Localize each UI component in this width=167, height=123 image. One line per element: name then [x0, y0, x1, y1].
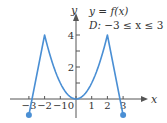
x-tick-label: −2: [37, 100, 52, 111]
domain-label: D: −3 ≤ x ≤ 3: [88, 19, 163, 31]
function-title: y = f(x): [88, 5, 128, 17]
x-axis-label: x: [151, 93, 158, 106]
x-tick-label: −3: [22, 100, 37, 111]
function-graph: −3−2−1012324 x y y = f(x) D: −3 ≤ x ≤ 3: [0, 0, 167, 123]
x-tick-label: −1: [53, 100, 68, 111]
x-tick-label: 2: [104, 100, 110, 111]
y-tick-label: 4: [68, 30, 74, 41]
x-tick-label: 1: [89, 100, 95, 111]
y-tick-label: 2: [68, 62, 74, 73]
endpoint-dot: [120, 112, 126, 118]
y-axis-label: y: [70, 4, 78, 17]
domain-prefix: D:: [88, 19, 104, 31]
x-axis-arrow-icon: [141, 96, 148, 102]
x-tick-label: 0: [68, 100, 74, 111]
domain-range: −3 ≤ x ≤ 3: [104, 19, 163, 31]
endpoint-dot: [26, 112, 32, 118]
